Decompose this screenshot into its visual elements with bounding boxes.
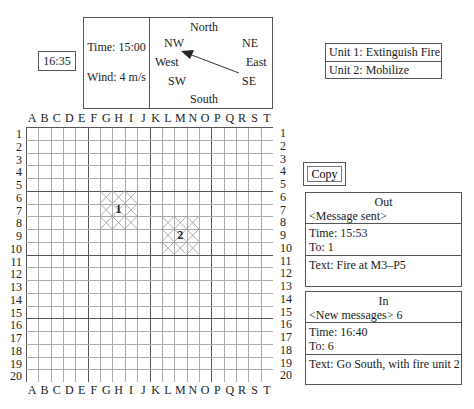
column-label-r: R [236, 383, 248, 398]
column-label-m: M [174, 383, 186, 398]
grid-lines [26, 127, 273, 382]
column-label-l: L [162, 111, 174, 126]
column-label-j: J [137, 383, 149, 398]
fire-map-grid[interactable]: 1 2 [26, 127, 273, 382]
column-label-f: F [88, 111, 100, 126]
column-label-a: A [26, 383, 38, 398]
column-label-b: B [38, 383, 50, 398]
unit-orders: Unit 1: Extinguish Fire Unit 2: Mobilize [325, 43, 442, 79]
row-label-20: 20 [6, 369, 22, 384]
column-label-g: G [100, 111, 112, 126]
column-label-k: K [150, 111, 162, 126]
in-message-panel: In <New messages> 6 Time: 16:40 To: 6 Te… [305, 291, 462, 385]
column-label-e: E [75, 383, 87, 398]
column-label-p: P [211, 383, 223, 398]
out-message-panel: Out <Message sent> Time: 15:53 To: 1 Tex… [305, 192, 462, 287]
out-text[interactable]: Text: Fire at M3–P5 [309, 258, 458, 272]
column-label-s: S [248, 383, 260, 398]
current-time: 16:35 [38, 51, 76, 71]
column-label-d: D [63, 383, 75, 398]
column-label-f: F [88, 383, 100, 398]
column-label-b: B [38, 111, 50, 126]
in-time: Time: 16:40 [309, 325, 458, 339]
row-label-20: 20 [280, 368, 296, 383]
out-status: <Message sent> [309, 209, 458, 223]
column-label-p: P [211, 111, 223, 126]
column-label-r: R [236, 111, 248, 126]
column-label-o: O [199, 111, 211, 126]
column-label-g: G [100, 383, 112, 398]
column-label-l: L [162, 383, 174, 398]
in-recipient: To: 6 [309, 339, 458, 353]
column-label-d: D [63, 111, 75, 126]
column-label-k: K [150, 383, 162, 398]
column-label-n: N [187, 111, 199, 126]
in-text: Text: Go South, with fire unit 2 [309, 357, 458, 371]
unit-1-order[interactable]: Unit 1: Extinguish Fire [326, 44, 441, 61]
column-label-h: H [112, 383, 124, 398]
column-label-m: M [174, 111, 186, 126]
wind-arrow-icon [84, 18, 272, 108]
out-title: Out [309, 195, 458, 209]
column-label-h: H [112, 111, 124, 126]
in-status[interactable]: <New messages> 6 [309, 308, 458, 322]
fire-area-2[interactable]: 2 [162, 216, 199, 254]
column-label-s: S [248, 111, 260, 126]
column-label-n: N [187, 383, 199, 398]
column-label-j: J [137, 111, 149, 126]
column-label-t: T [261, 383, 273, 398]
fire-area-1[interactable]: 1 [100, 191, 137, 229]
out-time: Time: 15:53 [309, 226, 458, 240]
column-label-a: A [26, 111, 38, 126]
column-label-i: I [125, 383, 137, 398]
out-recipient[interactable]: To: 1 [309, 240, 458, 254]
column-label-c: C [51, 111, 63, 126]
weather-panel: Time: 15:00 Wind: 4 m/s North NW NE West… [83, 17, 273, 109]
in-title: In [309, 294, 458, 308]
column-label-e: E [75, 111, 87, 126]
copy-button[interactable]: Copy [303, 162, 346, 186]
column-label-t: T [261, 111, 273, 126]
unit-2-order[interactable]: Unit 2: Mobilize [326, 61, 441, 79]
column-label-q: Q [224, 111, 236, 126]
column-label-i: I [125, 111, 137, 126]
column-label-c: C [51, 383, 63, 398]
column-label-q: Q [224, 383, 236, 398]
column-label-o: O [199, 383, 211, 398]
